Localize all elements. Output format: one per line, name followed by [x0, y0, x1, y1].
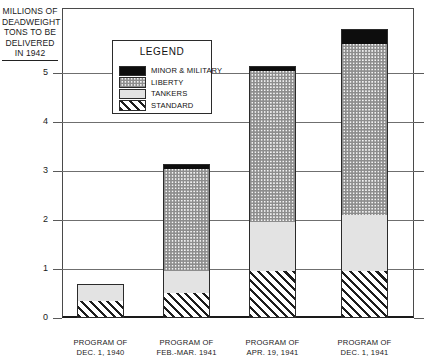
- legend-swatch-liberty: [119, 77, 146, 88]
- bar-1-segment-tankers: [77, 284, 124, 301]
- bar-1-segment-standard: [77, 301, 124, 318]
- y-tick-label-1: 1: [22, 263, 48, 273]
- legend-label-tankers: TANKERS: [151, 89, 187, 98]
- x-axis-label-3: PROGRAM OFAPR. 19, 1941: [225, 338, 321, 358]
- y-axis-caption-line-5: IN 1942: [2, 48, 58, 59]
- bar-2: [163, 164, 210, 318]
- y-axis-caption: MILLIONS OF DEADWEIGHT TONS TO BE DELIVE…: [2, 6, 58, 61]
- y-tick-right-2: [414, 220, 424, 221]
- legend-swatch-tankers: [119, 89, 146, 100]
- bar-4-segment-standard: [341, 271, 388, 318]
- bar-4: [341, 29, 388, 318]
- x-axis-label-4-line-1: PROGRAM OF: [317, 338, 413, 348]
- legend-title: LEGEND: [113, 46, 211, 57]
- legend-swatch-minor: [119, 66, 146, 77]
- bar-4-segment-liberty: [341, 44, 388, 216]
- x-axis-label-2-line-1: PROGRAM OF: [139, 338, 235, 348]
- bar-3-segment-standard: [249, 271, 296, 318]
- y-tick-label-0: 0: [22, 312, 48, 322]
- x-axis-label-2-line-2: FEB.-MAR. 1941: [139, 348, 235, 358]
- x-axis-label-1: PROGRAM OFDEC. 1, 1940: [53, 338, 149, 358]
- legend: LEGEND MINOR & MILITARYLIBERTYTANKERSSTA…: [112, 40, 212, 114]
- y-tick-right-1: [414, 269, 424, 270]
- bar-1: [77, 284, 124, 318]
- x-axis-label-2: PROGRAM OFFEB.-MAR. 1941: [139, 338, 235, 358]
- y-tick-left-0: [53, 318, 62, 319]
- bar-4-segment-tankers: [341, 215, 388, 271]
- legend-item-liberty: LIBERTY: [119, 77, 207, 89]
- x-axis-label-4: PROGRAM OFDEC. 1, 1941: [317, 338, 413, 358]
- legend-swatch-standard: [119, 100, 146, 111]
- y-tick-left-3: [53, 171, 62, 172]
- y-tick-label-3: 3: [22, 165, 48, 175]
- x-axis-label-3-line-2: APR. 19, 1941: [225, 348, 321, 358]
- y-axis-caption-rule: [2, 60, 58, 61]
- y-tick-right-3: [414, 171, 424, 172]
- y-tick-right-4: [414, 122, 424, 123]
- bar-3-segment-liberty: [249, 71, 296, 223]
- x-axis-label-1-line-1: PROGRAM OF: [53, 338, 149, 348]
- x-axis-label-3-line-1: PROGRAM OF: [225, 338, 321, 348]
- bar-chart: MILLIONS OF DEADWEIGHT TONS TO BE DELIVE…: [0, 0, 426, 364]
- y-axis-caption-line-2: DEADWEIGHT: [2, 17, 58, 28]
- y-axis-caption-line-3: TONS TO BE: [2, 27, 58, 38]
- bar-2-segment-standard: [163, 293, 210, 318]
- y-tick-label-2: 2: [22, 214, 48, 224]
- legend-items: MINOR & MILITARYLIBERTYTANKERSSTANDARD: [119, 65, 207, 111]
- bar-3: [249, 66, 296, 318]
- bar-3-segment-tankers: [249, 222, 296, 271]
- bar-2-segment-minor-military: [163, 164, 210, 169]
- bar-2-segment-tankers: [163, 271, 210, 293]
- y-axis-caption-line-4: DELIVERED: [2, 38, 58, 49]
- legend-item-standard: STANDARD: [119, 100, 207, 112]
- y-tick-left-5: [53, 73, 62, 74]
- y-tick-left-4: [53, 122, 62, 123]
- x-axis-label-1-line-2: DEC. 1, 1940: [53, 348, 149, 358]
- y-tick-right-0: [414, 318, 424, 319]
- y-tick-label-4: 4: [22, 116, 48, 126]
- y-tick-left-1: [53, 269, 62, 270]
- y-axis-caption-line-1: MILLIONS OF: [2, 6, 58, 17]
- x-axis-label-4-line-2: DEC. 1, 1941: [317, 348, 413, 358]
- legend-label-liberty: LIBERTY: [151, 78, 184, 87]
- legend-item-minor: MINOR & MILITARY: [119, 65, 207, 77]
- y-tick-label-5: 5: [22, 67, 48, 77]
- legend-label-standard: STANDARD: [151, 101, 193, 110]
- bar-2-segment-liberty: [163, 169, 210, 272]
- bar-4-segment-minor-military: [341, 29, 388, 44]
- y-tick-left-2: [53, 220, 62, 221]
- bar-3-segment-minor-military: [249, 66, 296, 71]
- y-tick-right-5: [414, 73, 424, 74]
- legend-label-minor: MINOR & MILITARY: [151, 66, 222, 75]
- legend-item-tankers: TANKERS: [119, 88, 207, 100]
